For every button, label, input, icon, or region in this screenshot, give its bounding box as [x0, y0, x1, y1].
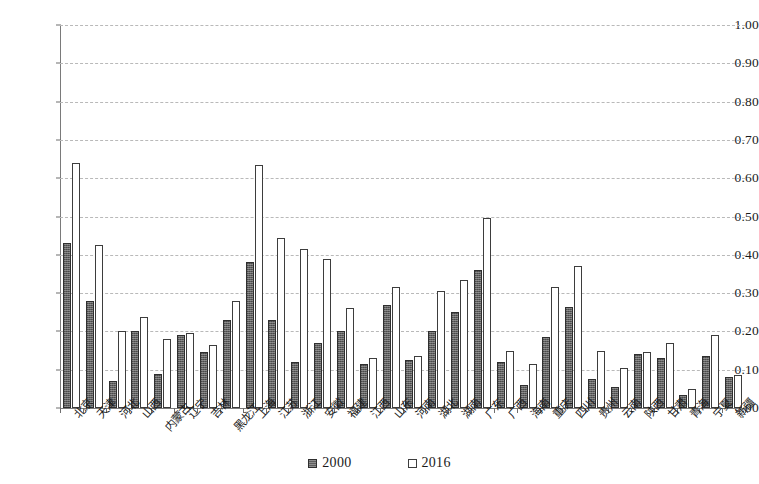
bar-group: [174, 25, 197, 408]
bar: [140, 317, 148, 408]
bar: [392, 287, 400, 408]
bar-group: [243, 25, 266, 408]
bar-group: [288, 25, 311, 408]
bar-group: [562, 25, 585, 408]
bar-group: [722, 25, 745, 408]
bar: [460, 280, 468, 408]
bar: [574, 266, 582, 408]
bar-group: [677, 25, 700, 408]
bar-group: [471, 25, 494, 408]
bar: [246, 262, 254, 408]
bar-group: [311, 25, 334, 408]
legend-swatch-icon: [408, 459, 417, 468]
bar-group: [699, 25, 722, 408]
chart-legend: 20002016: [0, 455, 759, 471]
bar-group: [151, 25, 174, 408]
bar: [63, 243, 71, 408]
bar: [369, 358, 377, 408]
bar: [95, 245, 103, 408]
bar: [483, 218, 491, 408]
bar-group: [357, 25, 380, 408]
legend-label: 2016: [422, 455, 451, 471]
bar-group: [380, 25, 403, 408]
bar: [268, 320, 276, 408]
bar: [72, 163, 80, 408]
bar: [383, 305, 391, 408]
bar: [711, 335, 719, 408]
legend-item-2000: 2000: [308, 455, 351, 471]
bar: [118, 331, 126, 408]
bar-group: [631, 25, 654, 408]
bar: [506, 351, 514, 408]
bar-group: [608, 25, 631, 408]
bar-group: [197, 25, 220, 408]
legend-item-2016: 2016: [408, 455, 451, 471]
bar: [323, 259, 331, 408]
bar-group: [540, 25, 563, 408]
bar: [597, 351, 605, 408]
bar-group: [83, 25, 106, 408]
bar: [474, 270, 482, 408]
bar: [232, 301, 240, 408]
bar-group: [334, 25, 357, 408]
bar: [163, 339, 171, 408]
bar-group: [494, 25, 517, 408]
bars-layer: [60, 25, 745, 408]
bar: [437, 291, 445, 408]
bar: [177, 335, 185, 408]
bar: [666, 343, 674, 408]
bar: [300, 249, 308, 408]
bar: [255, 165, 263, 408]
bar-group: [654, 25, 677, 408]
bar-group: [60, 25, 83, 408]
bar: [551, 287, 559, 408]
plot-area: [60, 25, 745, 408]
bar-group: [448, 25, 471, 408]
bar-group: [106, 25, 129, 408]
bar: [565, 307, 573, 408]
bar-group: [403, 25, 426, 408]
bar: [643, 352, 651, 408]
bar-group: [266, 25, 289, 408]
bar: [186, 333, 194, 408]
bar-group: [425, 25, 448, 408]
bar: [451, 312, 459, 408]
bar: [223, 320, 231, 408]
bar: [209, 345, 217, 408]
bar-group: [129, 25, 152, 408]
bar: [86, 301, 94, 408]
bar-group: [585, 25, 608, 408]
bar: [346, 308, 354, 408]
bar-chart: 0.000.100.200.300.400.500.600.700.800.90…: [0, 0, 759, 484]
legend-label: 2000: [322, 455, 351, 471]
bar-group: [517, 25, 540, 408]
bar-group: [220, 25, 243, 408]
bar: [277, 238, 285, 408]
legend-swatch-icon: [308, 459, 317, 468]
